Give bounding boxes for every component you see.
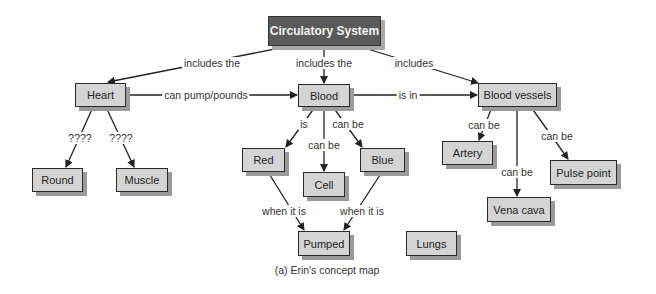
link-label-cs-blood: includes the <box>294 57 354 69</box>
concept-map: includes the includes the includes can p… <box>0 0 656 294</box>
node-round: Round <box>32 168 83 192</box>
link-label-vessels-venacava: can be <box>499 166 535 178</box>
link-label-heart-round: ???? <box>66 132 93 144</box>
node-blood-vessels: Blood vessels <box>478 83 557 107</box>
link-label-blood-red: is <box>298 118 310 130</box>
link-label-cs-heart: includes the <box>182 57 242 69</box>
node-artery: Artery <box>442 141 493 165</box>
link-label-blood-blue: can be <box>330 118 366 130</box>
node-cell: Cell <box>303 172 345 197</box>
node-circulatory-system: Circulatory System <box>268 16 381 46</box>
link-label-cs-vessels: includes <box>393 57 436 69</box>
node-vena-cava: Vena cava <box>487 197 551 222</box>
node-blue: Blue <box>360 148 405 172</box>
link-label-blood-vessels: is in <box>397 89 420 101</box>
node-pulse-point: Pulse point <box>550 160 617 185</box>
link-label-blood-cell: can be <box>306 139 342 151</box>
figure-caption: (a) Erin's concept map <box>275 264 380 276</box>
link-label-vessels-pulse: can be <box>539 130 575 142</box>
node-muscle: Muscle <box>116 168 168 192</box>
link-label-heart-blood: can pump/pounds <box>162 89 249 101</box>
node-blood: Blood <box>298 84 350 107</box>
link-label-red-pumped: when it is <box>260 205 308 217</box>
node-heart: Heart <box>75 83 126 107</box>
link-label-blue-pumped: when it is <box>338 205 386 217</box>
link-label-heart-muscle: ???? <box>107 132 134 144</box>
link-label-vessels-artery: can be <box>466 119 502 131</box>
node-red: Red <box>242 148 285 172</box>
node-lungs: Lungs <box>406 231 457 256</box>
node-pumped: Pumped <box>298 231 350 256</box>
